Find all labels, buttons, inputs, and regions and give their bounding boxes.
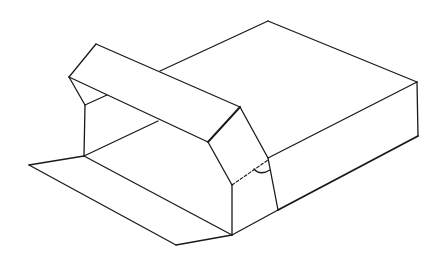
box-front-side — [84, 156, 278, 235]
open-end-interior — [69, 77, 232, 235]
fold-angle-marker — [254, 169, 270, 173]
carton-illustration — [0, 0, 440, 262]
lid-end-panel — [208, 107, 268, 185]
bottom-extension-flap — [29, 156, 232, 245]
raised-lid-flap — [69, 44, 240, 142]
